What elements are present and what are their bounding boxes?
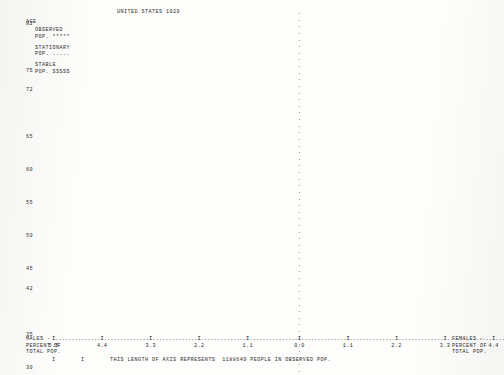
males-caption-line-1: PERCENT OF [26,343,61,350]
y-axis-tick-45: 45 [26,266,48,272]
males-caption-line-0: MALES - [26,336,61,343]
y-axis-tick-30: 30 [26,365,48,371]
x-axis-tick-label-1: 4.4 [97,343,107,349]
y-axis-tick-82: 82 [26,21,48,27]
x-axis-tick-label-6: 1.1 [343,343,353,349]
y-axis-tick-labels: 8275726560555045423530252015105 [26,0,50,375]
footnote-tick-mid: I [81,357,85,364]
males-caption-line-2: TOTAL POP. [26,349,61,356]
y-axis-tick-60: 60 [26,167,48,173]
y-axis-tick-75: 75 [26,68,48,74]
y-axis-tick-72: 72 [26,87,48,93]
y-axis-tick-65: 65 [26,134,48,140]
x-axis-tick-label-4: 1.1 [243,343,253,349]
x-axis-tick-label-5: 0.0 [294,343,304,349]
footnote-text: THIS LENGTH OF AXIS REPRESENTS 1188649 P… [110,357,331,364]
footnote-tick-left: I [52,357,56,364]
x-axis-tick-label-9: 4.4 [488,343,498,349]
x-axis-tick-label-8: 3.3 [440,343,450,349]
y-axis-tick-42: 42 [26,286,48,292]
x-axis-tick-label-3: 2.2 [194,343,204,349]
x-axis-tick-label-2: 3.3 [145,343,155,349]
y-axis-tick-55: 55 [26,200,48,206]
x-axis-line: I..............I..............I.........… [52,336,504,343]
females-axis-caption: FEMALES -PERCENT OFTOTAL POP. [452,336,487,356]
females-caption-line-2: TOTAL POP. [452,349,487,356]
ascii-pyramid-plot: . . [52,10,504,375]
y-axis-tick-50: 50 [26,233,48,239]
males-axis-caption: MALES -PERCENT OFTOTAL POP. [26,336,61,356]
x-axis-tick-label-7: 2.2 [391,343,401,349]
females-caption-line-1: PERCENT OF [452,343,487,350]
x-axis-tick-labels: 5.54.43.32.21.10.01.12.23.34.45.5 [52,343,452,353]
females-caption-line-0: FEMALES - [452,336,487,343]
